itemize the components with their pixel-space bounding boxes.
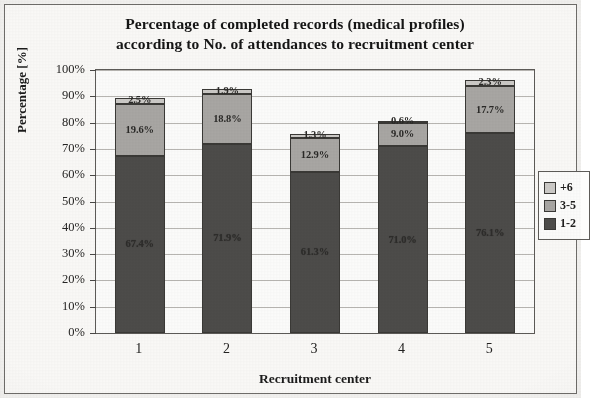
bar-group[interactable]: 67.4%19.6%2.5% xyxy=(115,70,165,333)
y-axis-tick-label: 50% xyxy=(39,195,85,207)
bar-segment-value-label: 18.8% xyxy=(213,114,241,124)
x-axis-tick-label: 1 xyxy=(109,341,169,357)
bar-segment-value-label: 71.9% xyxy=(213,233,241,243)
bar-segment-+6[interactable]: 1.3% xyxy=(290,134,340,137)
y-axis-tick-label: 90% xyxy=(39,89,85,101)
chart-title-line-2: according to No. of attendances to recru… xyxy=(45,34,545,54)
bar-segment-+6[interactable]: 0.6% xyxy=(378,121,428,123)
bar-segment-1-2[interactable]: 67.4% xyxy=(115,156,165,333)
y-axis-title: Percentage [%] xyxy=(14,47,30,133)
bar-group[interactable]: 71.9%18.8%1.9% xyxy=(202,70,252,333)
bar-segment-value-label: 9.0% xyxy=(391,129,414,139)
bar-segment-+6[interactable]: 1.9% xyxy=(202,89,252,94)
legend-color-swatch xyxy=(544,200,556,212)
legend-item[interactable]: 1-2 xyxy=(544,216,585,231)
y-axis-tick xyxy=(90,149,96,150)
legend-item[interactable]: 3-5 xyxy=(544,198,585,213)
legend-item[interactable]: +6 xyxy=(544,180,585,195)
legend-item-label: 3-5 xyxy=(560,198,576,213)
bar-group[interactable]: 71.0%9.0%0.6% xyxy=(378,70,428,333)
bar-segment-value-label: 0.6% xyxy=(391,116,414,126)
bar-group[interactable]: 76.1%17.7%2.3% xyxy=(465,70,515,333)
bar-segment-3-5[interactable]: 12.9% xyxy=(290,138,340,172)
bar-segment-+6[interactable]: 2.3% xyxy=(465,80,515,86)
y-axis-tick xyxy=(90,70,96,71)
y-axis-tick-label: 40% xyxy=(39,221,85,233)
bar-segment-value-label: 61.3% xyxy=(301,247,329,257)
bar-segment-value-label: 67.4% xyxy=(126,239,154,249)
y-axis-tick xyxy=(90,202,96,203)
bar-segment-3-5[interactable]: 17.7% xyxy=(465,86,515,133)
y-axis-tick xyxy=(90,175,96,176)
y-axis-tick xyxy=(90,307,96,308)
y-axis-tick xyxy=(90,228,96,229)
y-axis-tick xyxy=(90,254,96,255)
bar-segment-1-2[interactable]: 61.3% xyxy=(290,172,340,333)
y-axis-tick-label: 100% xyxy=(39,63,85,75)
x-axis-title: Recruitment center xyxy=(95,371,535,387)
bar-segment-value-label: 12.9% xyxy=(301,150,329,160)
chart-title: Percentage of completed records (medical… xyxy=(45,14,545,54)
y-axis-tick-label: 60% xyxy=(39,168,85,180)
y-axis-tick-label: 10% xyxy=(39,300,85,312)
bar-group[interactable]: 61.3%12.9%1.3% xyxy=(290,70,340,333)
bar-segment-3-5[interactable]: 18.8% xyxy=(202,94,252,143)
legend-item-label: 1-2 xyxy=(560,216,576,231)
y-axis-tick xyxy=(90,333,96,334)
y-axis-tick-label: 30% xyxy=(39,247,85,259)
y-axis-tick-label: 80% xyxy=(39,116,85,128)
x-axis-tick-label: 3 xyxy=(284,341,344,357)
plot-area: 67.4%19.6%2.5%71.9%18.8%1.9%61.3%12.9%1.… xyxy=(95,69,535,334)
legend-color-swatch xyxy=(544,218,556,230)
figure-frame: Percentage of completed records (medical… xyxy=(4,4,577,394)
bar-segment-value-label: 71.0% xyxy=(388,235,416,245)
bar-segment-value-label: 2.5% xyxy=(128,95,151,105)
bar-segment-1-2[interactable]: 76.1% xyxy=(465,133,515,333)
chart-title-line-1: Percentage of completed records (medical… xyxy=(125,15,464,32)
bar-segment-value-label: 2.3% xyxy=(479,77,502,87)
x-axis-tick-label: 5 xyxy=(459,341,519,357)
bar-segment-value-label: 1.9% xyxy=(216,86,239,96)
y-axis-tick xyxy=(90,280,96,281)
bar-segment-3-5[interactable]: 9.0% xyxy=(378,123,428,147)
bar-segment-value-label: 1.3% xyxy=(303,130,326,140)
bar-segment-1-2[interactable]: 71.9% xyxy=(202,144,252,333)
y-axis-tick-label: 0% xyxy=(39,326,85,338)
chart-legend: +63-51-2 xyxy=(538,171,590,240)
y-axis-tick-label: 70% xyxy=(39,142,85,154)
legend-color-swatch xyxy=(544,182,556,194)
y-axis-tick xyxy=(90,123,96,124)
y-axis-tick-label: 20% xyxy=(39,273,85,285)
x-axis-tick-label: 4 xyxy=(372,341,432,357)
x-axis-tick-label: 2 xyxy=(196,341,256,357)
bar-segment-value-label: 76.1% xyxy=(476,228,504,238)
bar-segment-+6[interactable]: 2.5% xyxy=(115,98,165,105)
bar-segment-1-2[interactable]: 71.0% xyxy=(378,146,428,333)
legend-item-label: +6 xyxy=(560,180,573,195)
bar-segment-value-label: 19.6% xyxy=(126,125,154,135)
y-axis-tick xyxy=(90,96,96,97)
bar-segment-3-5[interactable]: 19.6% xyxy=(115,104,165,156)
bar-segment-value-label: 17.7% xyxy=(476,105,504,115)
